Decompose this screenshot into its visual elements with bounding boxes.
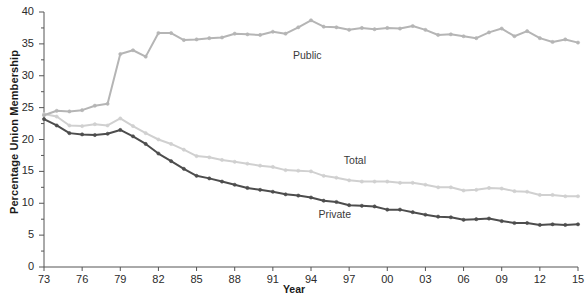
x-tick-label: 06: [449, 273, 479, 285]
y-tick-label: 5: [8, 228, 34, 240]
x-tick-label: 91: [258, 273, 288, 285]
x-tick-label: 73: [29, 273, 59, 285]
y-tick-label: 35: [8, 37, 34, 49]
series-label-total: Total: [344, 154, 366, 166]
x-tick-label: 12: [525, 273, 555, 285]
x-tick-label: 88: [220, 273, 250, 285]
x-tick-label: 03: [410, 273, 440, 285]
y-axis-ticks: [39, 12, 44, 267]
y-tick-label: 25: [8, 101, 34, 113]
x-tick-label: 79: [105, 273, 135, 285]
series-total: [42, 112, 579, 197]
x-tick-label: 76: [67, 273, 97, 285]
series-label-public: Public: [293, 49, 322, 61]
x-tick-label: 00: [372, 273, 402, 285]
y-tick-label: 20: [8, 133, 34, 145]
x-tick-label: 82: [143, 273, 173, 285]
x-tick-label: 09: [487, 273, 517, 285]
x-tick-label: 94: [296, 273, 326, 285]
y-tick-label: 0: [8, 260, 34, 272]
x-tick-label: 97: [334, 273, 364, 285]
union-membership-line-chart: Percentage Union Membership Year 0510152…: [0, 0, 588, 300]
y-tick-label: 15: [8, 164, 34, 176]
x-axis-ticks: [44, 267, 578, 271]
series-label-private: Private: [318, 208, 351, 220]
y-tick-label: 30: [8, 69, 34, 81]
y-tick-label: 10: [8, 196, 34, 208]
series-public: [42, 19, 579, 117]
y-tick-label: 40: [8, 5, 34, 17]
x-tick-label: 15: [563, 273, 588, 285]
plot-area: [0, 0, 588, 300]
x-tick-label: 85: [182, 273, 212, 285]
